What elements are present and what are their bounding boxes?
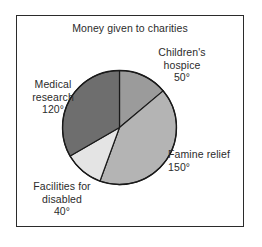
slice-value: 40° xyxy=(14,205,110,218)
chart-figure: Money given to charities Children's hosp… xyxy=(0,0,262,247)
slice-value: 150° xyxy=(168,161,258,174)
slice-value: 50° xyxy=(140,71,224,84)
slice-label-childrens-hospice: Children's hospice 50° xyxy=(140,46,224,84)
slice-label-line2: research xyxy=(14,91,92,104)
slice-label-line1: Facilities for xyxy=(14,180,110,193)
slice-label-facilities-for-disabled: Facilities for disabled 40° xyxy=(14,180,110,218)
slice-label-line2: hospice xyxy=(140,59,224,72)
slice-label-famine-relief: Famine relief 150° xyxy=(168,148,258,173)
slice-label-medical-research: Medical research 120° xyxy=(14,78,92,116)
slice-value: 120° xyxy=(14,103,92,116)
slice-label-line1: Medical xyxy=(14,78,92,91)
slice-label-line1: Children's xyxy=(140,46,224,59)
slice-label-line2: disabled xyxy=(14,193,110,206)
slice-label-line1: Famine relief xyxy=(168,148,258,161)
